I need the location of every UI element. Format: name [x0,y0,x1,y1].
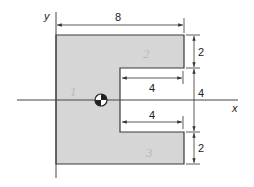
region-label-3: 3 [145,145,153,160]
x-axis-label: x [231,102,238,114]
dimension-label-lower-notch: 4 [149,109,155,121]
centroid-icon [95,94,107,106]
region-label-2: 2 [143,46,150,61]
region-label-1: 1 [70,84,77,99]
dimension-label-top-flange: 2 [198,46,204,58]
dimension-label-opening: 4 [198,87,204,99]
dimension-label-width: 8 [115,11,121,23]
dimension-label-bottom-flange: 2 [198,142,204,154]
dimension-label-upper-notch: 4 [149,82,155,94]
c-section-diagram: 1 2 3 y x 8 2 4 2 4 4 [0,0,254,187]
y-axis-label: y [43,10,51,22]
